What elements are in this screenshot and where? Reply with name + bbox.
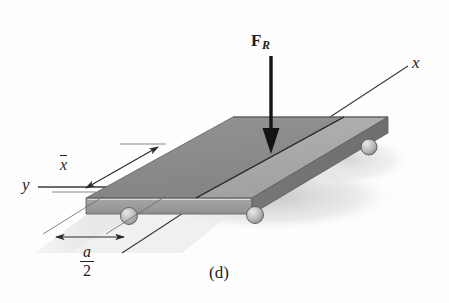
support-right (361, 139, 377, 155)
a-over-2-dimension-label: a2 (80, 244, 94, 279)
xbar-text: x (60, 155, 67, 173)
a-over-2-numerator: a (80, 244, 94, 262)
plate-front-face (86, 198, 252, 214)
a-over-2-denominator: 2 (80, 262, 94, 279)
xbar-dimension-label: x (60, 155, 67, 173)
figure-caption: (d) (209, 264, 229, 281)
x-axis-label: x (412, 54, 420, 71)
force-label-base: F (251, 31, 261, 50)
figure-graphics (0, 0, 449, 303)
resultant-force-label: FR (251, 32, 270, 51)
force-label-subscript: R (262, 38, 270, 52)
y-axis-label: y (22, 176, 30, 193)
figure-container: x y FR x a2 (d) (0, 0, 449, 303)
support-front (247, 207, 264, 224)
